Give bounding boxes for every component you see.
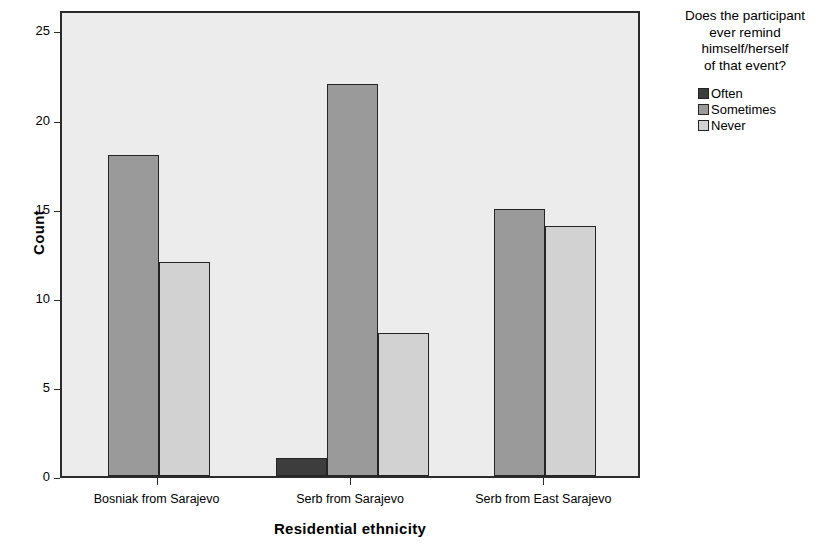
- legend-item-sometimes[interactable]: Sometimes: [698, 102, 828, 117]
- legend-title-line: himself/herself: [662, 41, 828, 58]
- legend-title: Does the participantever remindhimself/h…: [662, 8, 828, 74]
- x-axis-title: Residential ethnicity: [60, 520, 640, 537]
- legend-title-line: Does the participant: [662, 8, 828, 25]
- legend-label: Never: [711, 118, 746, 133]
- bar-sometimes-3: [494, 209, 545, 476]
- x-tick-label: Serb from East Sarajevo: [475, 492, 611, 506]
- bar-chart-figure: Count 0510152025 Bosniak from SarajevoSe…: [0, 0, 830, 546]
- plot-area: [60, 11, 640, 478]
- y-tick-mark: [54, 478, 60, 479]
- y-tick-label: 25: [22, 26, 50, 36]
- y-tick-label: 10: [22, 294, 50, 304]
- legend-swatch-never: [698, 120, 709, 131]
- y-tick-label: 0: [22, 472, 50, 482]
- legend-entries: OftenSometimesNever: [662, 86, 828, 133]
- legend-item-never[interactable]: Never: [698, 118, 828, 133]
- legend-label: Sometimes: [711, 102, 776, 117]
- bar-sometimes-2: [327, 84, 378, 476]
- bar-never-1: [159, 262, 210, 476]
- legend-item-often[interactable]: Often: [698, 86, 828, 101]
- bar-never-2: [378, 333, 429, 476]
- legend-title-line: of that event?: [662, 58, 828, 75]
- y-tick-label: 5: [22, 383, 50, 393]
- bar-never-3: [545, 226, 596, 476]
- x-tick-mark: [543, 478, 544, 485]
- bar-often-2: [276, 458, 327, 476]
- legend-title-line: ever remind: [662, 25, 828, 42]
- x-tick-mark: [350, 478, 351, 485]
- y-tick-label: 15: [22, 205, 50, 215]
- x-tick-mark: [157, 478, 158, 485]
- bars-layer: [62, 13, 638, 476]
- bar-sometimes-1: [108, 155, 159, 476]
- y-tick-label: 20: [22, 116, 50, 126]
- legend-swatch-sometimes: [698, 104, 709, 115]
- legend-swatch-often: [698, 88, 709, 99]
- x-tick-label: Bosniak from Sarajevo: [94, 492, 220, 506]
- y-axis-title: Count: [30, 173, 47, 293]
- legend: Does the participantever remindhimself/h…: [662, 8, 828, 134]
- x-tick-label: Serb from Sarajevo: [296, 492, 404, 506]
- legend-label: Often: [711, 86, 743, 101]
